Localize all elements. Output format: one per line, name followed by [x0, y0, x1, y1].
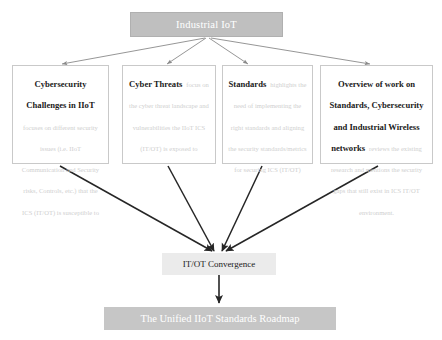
edge-group-fanout	[62, 38, 370, 64]
edge-head-to-box4	[211, 38, 370, 64]
node-unified-roadmap[interactable]: The Unified IIoT Standards Roadmap	[104, 307, 336, 330]
node-industrial-iot-label: Industrial IoT	[176, 19, 237, 30]
node-cybersecurity-challenges-title: Cybersecurity Challenges in IIoT	[26, 79, 94, 110]
node-cyber-threats-text: Cyber Threats focus on the cyber threat …	[128, 71, 210, 156]
node-overview-of-work-title: Overview of work on Standards, Cybersecu…	[329, 79, 423, 153]
diagram-canvas: Industrial IoT Cybersecurity Challenges …	[0, 0, 442, 340]
node-cyber-threats-title: Cyber Threats	[129, 79, 182, 89]
node-overview-of-work-body: reviews the existing research and mentio…	[331, 145, 422, 216]
edge-head-to-box2	[167, 38, 206, 64]
node-standards-text: Standards highlights the need of impleme…	[228, 71, 307, 177]
node-cyber-threats[interactable]: Cyber Threats focus on the cyber threat …	[122, 65, 216, 164]
node-it-ot-convergence-label: IT/OT Convergence	[183, 259, 255, 269]
node-standards-body: highlights the need of implementing the …	[228, 81, 306, 173]
node-cyber-threats-body: focus on the cyber threat landscape and …	[129, 81, 209, 152]
node-cybersecurity-challenges[interactable]: Cybersecurity Challenges in IIoT focuses…	[12, 65, 109, 164]
edge-head-to-box3	[209, 38, 248, 64]
node-unified-roadmap-label: The Unified IIoT Standards Roadmap	[140, 313, 299, 324]
node-overview-of-work[interactable]: Overview of work on Standards, Cybersecu…	[320, 65, 433, 164]
node-standards[interactable]: Standards highlights the need of impleme…	[222, 65, 313, 164]
edge-head-to-box1	[62, 38, 205, 64]
node-it-ot-convergence[interactable]: IT/OT Convergence	[162, 253, 276, 275]
edge-box2-to-convergence	[168, 166, 214, 251]
node-cybersecurity-challenges-body: focuses on different security issues (i.…	[22, 124, 99, 216]
node-cybersecurity-challenges-text: Cybersecurity Challenges in IIoT focuses…	[18, 71, 103, 220]
edge-box3-to-convergence	[222, 166, 262, 251]
node-standards-title: Standards	[229, 79, 267, 89]
node-industrial-iot[interactable]: Industrial IoT	[130, 12, 283, 37]
node-overview-of-work-text: Overview of work on Standards, Cybersecu…	[326, 71, 427, 220]
